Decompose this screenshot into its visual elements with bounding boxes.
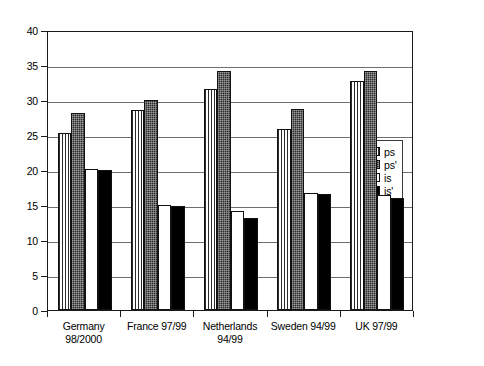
bar-is	[304, 193, 318, 310]
y-axis-tick	[41, 171, 47, 172]
y-axis-tick-label: 15	[10, 201, 38, 211]
bar-ps-prime	[364, 71, 378, 310]
y-axis-tick-label: 40	[10, 26, 38, 36]
legend-label: ps	[384, 147, 395, 157]
x-axis-category-label: UK 97/99	[334, 320, 419, 333]
y-axis-tick	[41, 66, 47, 67]
bar-is	[377, 195, 391, 311]
bar-group	[268, 32, 341, 310]
y-axis-tick-label: 20	[10, 166, 38, 176]
x-axis-tick	[47, 311, 48, 317]
bar-is-prime	[391, 198, 405, 310]
legend-label: ps'	[384, 160, 397, 170]
bar-is-prime	[244, 218, 258, 310]
legend-label: is	[384, 173, 391, 183]
y-axis-tick	[41, 136, 47, 137]
bar-group	[194, 32, 267, 310]
bar-ps	[277, 129, 291, 310]
bar-is	[85, 169, 99, 310]
bar-ps-prime	[291, 109, 305, 310]
x-axis-category-line: UK 97/99	[334, 320, 419, 333]
bar-chart-figure: 0510152025303540 psps'isis' Germany98/20…	[0, 0, 484, 366]
y-axis-tick-label: 5	[10, 271, 38, 281]
bar-is-prime	[171, 206, 185, 310]
plot-area: psps'isis'	[47, 31, 413, 311]
y-axis-tick	[41, 101, 47, 102]
bar-group	[48, 32, 121, 310]
bar-ps	[204, 89, 218, 310]
x-axis-tick	[120, 311, 121, 317]
x-axis-tick	[413, 311, 414, 317]
x-axis-tick	[193, 311, 194, 317]
x-axis-category-line: 94/99	[187, 333, 272, 346]
bar-ps	[131, 110, 145, 310]
bar-ps	[58, 133, 72, 310]
y-axis-tick-label: 35	[10, 61, 38, 71]
y-axis-tick	[41, 31, 47, 32]
y-axis-tick	[41, 206, 47, 207]
bar-ps	[350, 81, 364, 310]
x-axis-tick	[340, 311, 341, 317]
bar-is-prime	[98, 170, 112, 310]
bar-group	[121, 32, 194, 310]
y-axis-tick-label: 30	[10, 96, 38, 106]
y-axis-tick	[41, 311, 47, 312]
y-axis-tick-label: 25	[10, 131, 38, 141]
bar-is-prime	[318, 194, 332, 310]
bar-ps-prime	[217, 71, 231, 310]
y-axis-tick-label: 10	[10, 236, 38, 246]
bar-is	[231, 211, 245, 310]
bar-ps-prime	[71, 113, 85, 310]
x-axis-category-line: 98/2000	[41, 333, 126, 346]
y-axis-tick	[41, 276, 47, 277]
bar-ps-prime	[144, 100, 158, 310]
bar-is	[158, 205, 172, 310]
y-axis-tick	[41, 241, 47, 242]
y-axis-tick-label: 0	[10, 306, 38, 316]
x-axis-tick	[267, 311, 268, 317]
